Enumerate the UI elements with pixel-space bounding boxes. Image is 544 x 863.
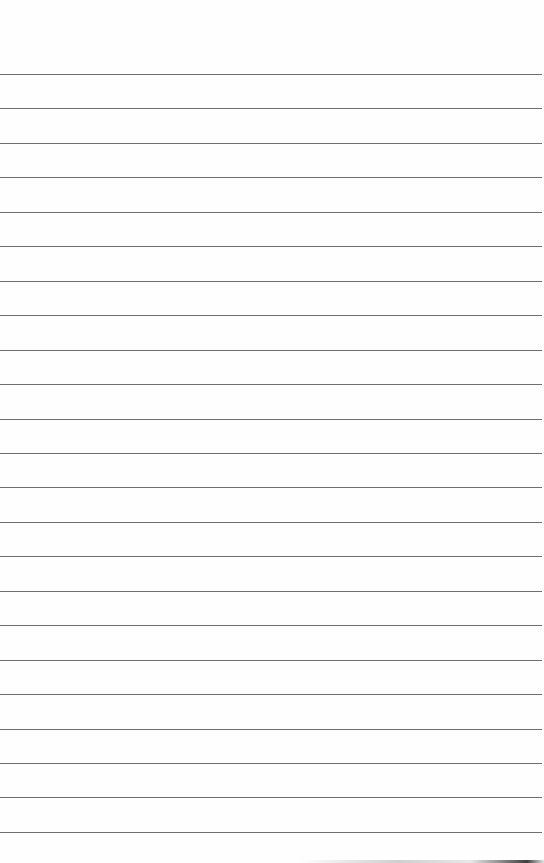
- ruled-line: [0, 487, 542, 488]
- ruled-line: [0, 453, 542, 454]
- ruled-line: [0, 350, 542, 351]
- ruled-line: [0, 281, 542, 282]
- ruled-line: [0, 832, 542, 833]
- ruled-line: [0, 74, 542, 75]
- ruled-line: [0, 729, 542, 730]
- ruled-line: [0, 246, 542, 247]
- ruled-line: [0, 763, 542, 764]
- ruled-line: [0, 556, 542, 557]
- ruled-line: [0, 108, 542, 109]
- ruled-line: [0, 797, 542, 798]
- ruled-line: [0, 522, 542, 523]
- ruled-line: [0, 143, 542, 144]
- ruled-line: [0, 315, 542, 316]
- ruled-line: [0, 694, 542, 695]
- ruled-line: [0, 384, 542, 385]
- ruled-line: [0, 660, 542, 661]
- ruled-line: [0, 591, 542, 592]
- ruled-line: [0, 212, 542, 213]
- ruled-line: [0, 177, 542, 178]
- ruled-line: [0, 419, 542, 420]
- ruled-line: [0, 625, 542, 626]
- lined-paper: [0, 0, 544, 863]
